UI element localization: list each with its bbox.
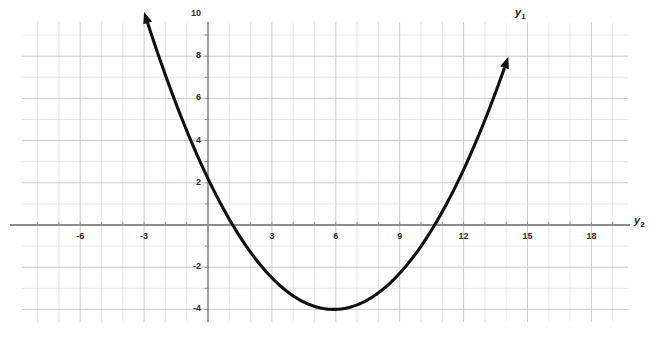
- x-tick-label: 12: [450, 231, 478, 241]
- grid-minor-lines: [22, 22, 628, 322]
- axis-lines: [10, 22, 630, 322]
- y-tick-label: 4: [174, 135, 201, 145]
- y-tick-label: -4: [174, 303, 201, 313]
- y-tick-label: 10: [174, 8, 201, 18]
- plot-canvas: [0, 0, 664, 341]
- curve-arrowheads: [143, 12, 509, 69]
- chart-figure: -6-3369121518 108642-2-4-6 y1 y2: [0, 0, 664, 341]
- x-tick-label: 6: [322, 231, 350, 241]
- y-tick-label: 6: [174, 92, 201, 102]
- x-tick-label: 9: [386, 231, 414, 241]
- x-tick-label: -6: [66, 231, 94, 241]
- y-tick-label: -2: [174, 261, 201, 271]
- y-tick-label: 8: [174, 50, 201, 60]
- grid-major-lines: [22, 22, 628, 322]
- y-tick-label: 2: [174, 177, 201, 187]
- x-tick-label: -3: [130, 231, 158, 241]
- x-axis-label-y2: y2: [634, 214, 645, 229]
- axis-tick-marks: [38, 35, 613, 309]
- x-tick-label: 18: [577, 231, 605, 241]
- x-tick-label: 15: [514, 231, 542, 241]
- curve-label-y1: y1: [515, 6, 526, 21]
- x-tick-label: 3: [258, 231, 286, 241]
